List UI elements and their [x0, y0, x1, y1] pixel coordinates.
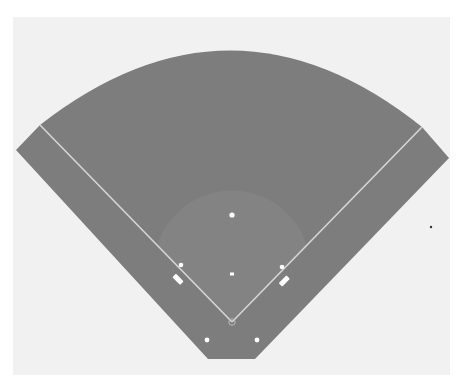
on-deck-circle-right: [255, 338, 260, 343]
pitchers-mound: [230, 273, 234, 276]
baseball-field-diagram: [0, 0, 465, 383]
first-base: [280, 265, 285, 270]
on-deck-circle-left: [205, 338, 210, 343]
second-base: [229, 212, 234, 217]
third-base: [179, 263, 184, 268]
stray-dot: [430, 226, 432, 228]
